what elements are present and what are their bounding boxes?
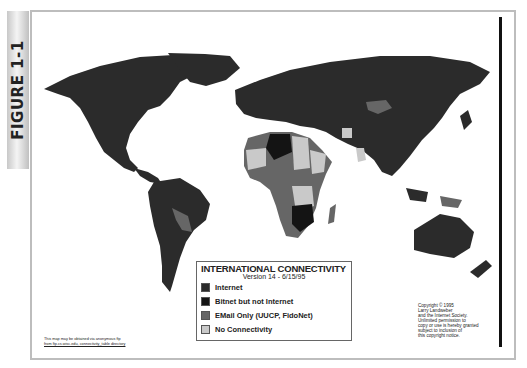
source-note: This map may be obtained via anonymous f…	[44, 337, 125, 347]
legend-label: Bitnet but not Internet	[215, 297, 293, 306]
legend-label: Internet	[215, 283, 243, 292]
legend-item-bitnet: Bitnet but not Internet	[201, 294, 347, 308]
copyright-notice: Copyright © 1995 Larry Landweber and the…	[418, 303, 503, 338]
copyright-line: this copyright notice.	[418, 333, 503, 338]
australia-oceania	[406, 188, 492, 278]
swatch-internet	[201, 283, 210, 292]
legend-item-email: EMail Only (UUCP, FidoNet)	[201, 308, 347, 322]
africa	[244, 132, 336, 238]
swatch-no-connectivity	[201, 325, 210, 334]
map-legend: INTERNATIONAL CONNECTIVITY Version 14 - …	[196, 261, 352, 341]
swatch-bitnet	[201, 297, 210, 306]
source-note-link: from ftp.cs.wisc.edu, connectivity_table…	[44, 342, 125, 347]
north-america	[44, 53, 240, 184]
legend-subtitle: Version 14 - 6/15/95	[201, 273, 347, 280]
legend-item-internet: Internet	[201, 280, 347, 294]
legend-label: EMail Only (UUCP, FidoNet)	[215, 311, 313, 320]
legend-item-no-connectivity: No Connectivity	[201, 322, 347, 336]
figure-label: FIGURE 1-1	[9, 40, 27, 139]
figure-tab: FIGURE 1-1	[7, 11, 29, 169]
legend-label: No Connectivity	[215, 325, 272, 334]
right-border-bar	[499, 17, 502, 347]
swatch-email	[201, 311, 210, 320]
